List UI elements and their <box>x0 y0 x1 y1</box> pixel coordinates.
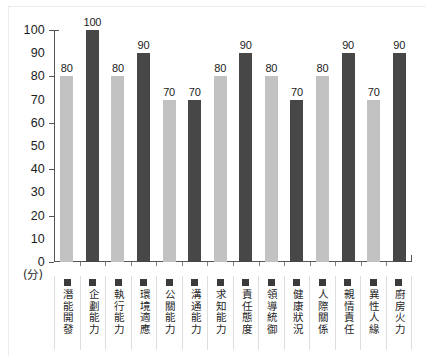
y-axis-tick <box>49 262 54 263</box>
x-axis-tick <box>386 262 387 266</box>
x-axis-tick <box>207 262 208 266</box>
x-axis-tick <box>131 262 132 266</box>
bar: 70 <box>163 100 176 262</box>
legend-item[interactable]: 企劃能力 <box>80 276 106 350</box>
y-axis-top-cap <box>54 30 59 31</box>
y-axis-tick-label: 60 <box>31 116 45 130</box>
y-axis-tick-label: 80 <box>31 69 45 83</box>
y-axis-tick-label: 30 <box>31 185 45 199</box>
bar: 70 <box>188 100 201 262</box>
bar: 90 <box>342 53 355 262</box>
x-axis-tick <box>310 262 311 266</box>
legend-item-label: 企劃能力 <box>87 289 98 335</box>
scan-frame-top-edge <box>8 6 426 7</box>
legend-swatch-icon <box>242 279 249 286</box>
y-axis-tick <box>49 76 54 77</box>
legend-swatch-icon <box>395 279 402 286</box>
bar: 90 <box>239 53 252 262</box>
y-axis-unit-label: (分) <box>23 266 43 282</box>
x-axis-tick <box>105 262 106 266</box>
legend-swatch-icon <box>344 279 351 286</box>
legend-item[interactable]: 廚房火力 <box>386 276 413 350</box>
y-axis-tick <box>49 216 54 217</box>
legend-item-label: 健康狀況 <box>291 289 302 335</box>
y-axis-tick <box>49 30 54 31</box>
x-axis-tick <box>284 262 285 266</box>
legend-swatch-icon <box>370 279 377 286</box>
legend-swatch-icon <box>268 279 275 286</box>
legend-item[interactable]: 領導統御 <box>258 276 284 350</box>
y-axis-tick <box>49 169 54 170</box>
legend-swatch-icon <box>319 279 326 286</box>
bar-value-label: 80 <box>317 62 329 74</box>
bar: 80 <box>265 76 278 262</box>
x-axis-tick <box>361 262 362 266</box>
bar: 80 <box>316 76 329 262</box>
x-axis-tick <box>80 262 81 266</box>
bar-chart: 0102030405060708090100 80100809070708090… <box>0 0 434 362</box>
legend-item[interactable]: 求知能力 <box>207 276 233 350</box>
bar: 80 <box>60 76 73 262</box>
legend-item-label: 執行能力 <box>113 289 124 335</box>
legend-item[interactable]: 公關能力 <box>156 276 182 350</box>
y-axis-tick-label: 50 <box>31 139 45 153</box>
y-axis-tick-label: 10 <box>31 232 45 246</box>
bar-value-label: 80 <box>61 62 73 74</box>
x-axis-tick <box>335 262 336 266</box>
legend-item-label: 異性人緣 <box>368 289 379 335</box>
x-axis-tick <box>259 262 260 266</box>
bar: 90 <box>393 53 406 262</box>
y-axis-tick <box>49 123 54 124</box>
legend-item-label: 潛能開發 <box>62 289 73 335</box>
legend-item[interactable]: 異性人緣 <box>360 276 386 350</box>
legend-item[interactable]: 執行能力 <box>105 276 131 350</box>
legend-swatch-icon <box>293 279 300 286</box>
y-axis-tick-label: 40 <box>31 162 45 176</box>
bar-value-label: 80 <box>214 62 226 74</box>
legend-item-label: 親情責任 <box>342 289 353 335</box>
y-axis-line <box>54 30 55 262</box>
bar-value-label: 80 <box>112 62 124 74</box>
legend-item[interactable]: 潛能開發 <box>54 276 80 350</box>
legend-swatch-icon <box>140 279 147 286</box>
bar: 70 <box>367 100 380 262</box>
legend-item[interactable]: 健康狀況 <box>284 276 310 350</box>
x-axis-tick <box>156 262 157 266</box>
scan-frame-left-edge <box>8 6 9 356</box>
bar: 70 <box>290 100 303 262</box>
legend-item[interactable]: 溝通能力 <box>182 276 208 350</box>
legend-item-label: 溝通能力 <box>189 289 200 335</box>
legend-item-label: 公關能力 <box>164 289 175 335</box>
bar-value-label: 90 <box>240 39 252 51</box>
legend-item[interactable]: 環境適應 <box>131 276 157 350</box>
legend-item[interactable]: 人際關係 <box>309 276 335 350</box>
legend: 潛能開發企劃能力執行能力環境適應公關能力溝通能力求知能力責任態度領導統御健康狀況… <box>54 276 412 350</box>
bar-value-label: 90 <box>393 39 405 51</box>
legend-item[interactable]: 親情責任 <box>335 276 361 350</box>
legend-swatch-icon <box>64 279 71 286</box>
bar-value-label: 70 <box>163 86 175 98</box>
legend-item-label: 責任態度 <box>240 289 251 335</box>
y-axis-tick-label: 20 <box>31 209 45 223</box>
legend-item[interactable]: 責任態度 <box>233 276 259 350</box>
legend-item-label: 環境適應 <box>138 289 149 335</box>
legend-swatch-icon <box>89 279 96 286</box>
x-axis-tick <box>233 262 234 266</box>
legend-item-label: 廚房火力 <box>393 289 404 335</box>
x-axis-right-cap <box>411 255 412 262</box>
legend-swatch-icon <box>166 279 173 286</box>
legend-item-label: 領導統御 <box>266 289 277 335</box>
y-axis-tick-label: 100 <box>24 23 45 37</box>
bar-value-label: 80 <box>265 62 277 74</box>
bar-value-label: 100 <box>83 16 101 28</box>
bar-value-label: 70 <box>368 86 380 98</box>
bar-value-label: 70 <box>189 86 201 98</box>
legend-swatch-icon <box>217 279 224 286</box>
bar: 90 <box>137 53 150 262</box>
bar: 100 <box>86 30 99 262</box>
bar-value-label: 90 <box>342 39 354 51</box>
bar: 80 <box>214 76 227 262</box>
plot-area: 0102030405060708090100 80100809070708090… <box>54 30 412 262</box>
y-axis-tick-label: 90 <box>31 46 45 60</box>
legend-swatch-icon <box>191 279 198 286</box>
